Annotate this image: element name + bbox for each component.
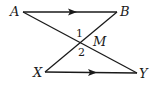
angle-2-label: 2: [78, 46, 85, 59]
label-y: Y: [139, 66, 149, 81]
label-m: M: [92, 34, 107, 49]
label-a: A: [9, 4, 19, 19]
label-x: X: [32, 65, 43, 80]
geometry-diagram: A B X Y M 1 2: [0, 0, 153, 86]
angle-1-label: 1: [76, 27, 83, 40]
label-b: B: [119, 4, 130, 19]
